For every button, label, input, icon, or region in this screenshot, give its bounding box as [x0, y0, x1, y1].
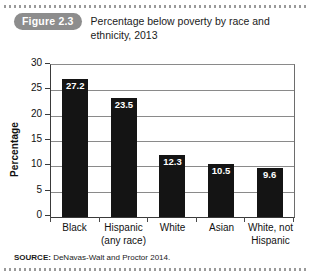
bar: 27.2: [62, 79, 88, 217]
bar: 12.3: [159, 155, 185, 217]
figure-header: Figure 2.3 Percentage below poverty by r…: [14, 13, 303, 42]
chart-area: Percentage 27.223.512.310.59.6 051015202…: [0, 52, 309, 248]
bar-slot: 9.6: [245, 65, 294, 217]
y-tick-mark: [45, 63, 50, 64]
bar-slot: 12.3: [148, 65, 197, 217]
x-axis-label: White, notHispanic: [246, 222, 295, 247]
x-axis-labels: BlackHispanic(any race)WhiteAsianWhite, …: [50, 222, 295, 247]
x-axis-label-line: Hispanic: [247, 235, 294, 248]
top-dotted-rule: [4, 5, 307, 8]
source-label: SOURCE:: [14, 253, 51, 262]
bar-value-label: 27.2: [62, 80, 88, 91]
y-tick-mark: [45, 139, 50, 140]
y-tick-label: 5: [36, 184, 42, 196]
bar: 23.5: [111, 98, 137, 217]
bar: 10.5: [208, 164, 234, 217]
figure-number-badge: Figure 2.3: [14, 13, 82, 30]
plot-frame: 27.223.512.310.59.6: [50, 64, 295, 218]
y-tick-mark: [45, 114, 50, 115]
source-note: SOURCE: DeNavas-Walt and Proctor 2014.: [14, 253, 170, 263]
x-axis-label-line: White: [149, 222, 196, 235]
y-tick-label: 30: [31, 57, 42, 69]
bar-value-label: 12.3: [159, 156, 185, 167]
y-tick-label: 0: [36, 209, 42, 221]
y-axis-label: Percentage: [9, 105, 20, 195]
y-tick-label: 15: [31, 133, 42, 145]
bar: 9.6: [257, 168, 283, 217]
x-axis-label: White: [148, 222, 197, 247]
bar-series: 27.223.512.310.59.6: [51, 65, 294, 217]
y-tick-mark: [45, 190, 50, 191]
x-axis-label-line: Black: [51, 222, 98, 235]
figure-container: Figure 2.3 Percentage below poverty by r…: [0, 0, 309, 277]
y-tick-mark: [45, 215, 50, 216]
x-axis-label: Hispanic(any race): [99, 222, 148, 247]
y-tick-mark: [45, 164, 50, 165]
source-citation: DeNavas-Walt and Proctor 2014.: [53, 253, 170, 262]
x-axis-label: Black: [50, 222, 99, 247]
x-axis-label: Asian: [197, 222, 246, 247]
bar-slot: 23.5: [100, 65, 149, 217]
bar-value-label: 10.5: [208, 165, 234, 176]
y-tick-label: 20: [31, 108, 42, 120]
figure-title: Percentage below poverty by race and eth…: [91, 13, 286, 42]
y-tick-label: 25: [31, 82, 42, 94]
bar-slot: 27.2: [51, 65, 100, 217]
bar-slot: 10.5: [197, 65, 246, 217]
bottom-dotted-rule: [4, 268, 307, 271]
x-axis-label-line: Hispanic: [100, 222, 147, 235]
bar-value-label: 9.6: [257, 169, 283, 180]
y-tick-label: 10: [31, 158, 42, 170]
x-axis-label-line: Asian: [198, 222, 245, 235]
x-axis-label-line: (any race): [100, 235, 147, 248]
x-axis-label-line: White, not: [247, 222, 294, 235]
y-tick-mark: [45, 88, 50, 89]
bar-value-label: 23.5: [111, 99, 137, 110]
